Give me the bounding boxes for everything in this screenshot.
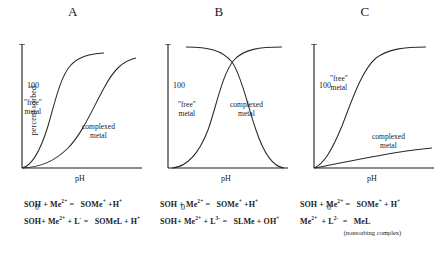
eq-b2-left: SOH+ Me <box>160 217 195 226</box>
eq-c1-left: SOH + Me <box>300 200 337 209</box>
eq-b1-tail: +H <box>244 200 255 209</box>
panel-c-label-free-metal: "free" metal <box>330 74 348 92</box>
eq-b1-right: SOMe <box>216 200 238 209</box>
eq-b1-left-sup: 2+ <box>197 198 203 204</box>
panel-b: B 100 0 "free" metal complexed metal pH <box>146 0 292 195</box>
eq-a2-left-sup: 2+ <box>59 215 65 221</box>
eq-a2-left: SOH+ Me <box>24 217 59 226</box>
eq-a2-tail-sup: + <box>137 215 140 221</box>
eq-a1-tail: +H <box>108 200 119 209</box>
eq-c1-left-sup: 2+ <box>337 198 343 204</box>
panel-b-label-complexed-metal: complexed metal <box>230 100 263 118</box>
panel-a-letter: A <box>0 4 146 20</box>
eq-a1-left-sup: 2+ <box>61 198 67 204</box>
equations-panel-b: SOH + Me2+ = SOMe+ +H+ SOH+ Me2+ + L3- =… <box>160 200 305 234</box>
eq-a1-tail-sup: + <box>119 198 122 204</box>
eq-c1-right-sup: + <box>379 198 382 204</box>
equations-panel-a: SOH + Me2+ = SOMe+ +H+ SOH+ Me2+ + L- = … <box>24 200 164 234</box>
panel-c-label-complexed-metal: complexed metal <box>372 132 405 150</box>
eq-a2-right: SOMeL <box>95 217 122 226</box>
eq-a2-sign: = <box>84 217 89 226</box>
eq-c1-tail-sup: + <box>397 198 400 204</box>
eq-a2-mid-sup: - <box>80 215 82 221</box>
eq-b1-right-sup: + <box>239 198 242 204</box>
eq-c1-tail: + H <box>384 200 397 209</box>
eq-a1-sign: = <box>70 200 75 209</box>
eq-b2-left-sup: 2+ <box>195 215 201 221</box>
equation-b-2: SOH+ Me2+ + L3- = SLMe + OH+ <box>160 217 305 226</box>
eq-b2-mid: + L <box>203 217 215 226</box>
eq-b2-mid-sup: 3- <box>216 215 221 221</box>
panel-b-label-free-metal: "free" metal <box>178 100 196 118</box>
panel-b-ytick-100: 100 <box>163 82 185 90</box>
eq-b2-tail: + OH <box>257 217 276 226</box>
eq-b2-sign: = <box>222 217 227 226</box>
panel-c-ytick-100: 100 <box>309 82 331 90</box>
eq-b1-tail-sup: + <box>255 198 258 204</box>
eq-a1-left: SOH + Me <box>24 200 61 209</box>
panel-b-plot: 100 0 "free" metal complexed metal <box>164 44 288 168</box>
eq-a2-tail: + H <box>124 217 137 226</box>
eq-c1-right: SOMe <box>356 200 378 209</box>
panel-c-svg <box>310 44 436 176</box>
figure-container: A 100 0 percent sorbed "free" metal comp… <box>0 0 439 267</box>
eq-a1-right: SOMe <box>80 200 102 209</box>
equations-panel-c: SOH + Me2+ = SOMe+ + H+ Me2+ + L2- = MeL… <box>300 200 439 236</box>
eq-c2-left-sup: 2+ <box>311 215 317 221</box>
panel-a-plot: 100 0 percent sorbed "free" metal comple… <box>18 44 142 168</box>
eq-b2-right: SLMe <box>233 217 254 226</box>
panel-c: C 100 0 "free" metal complexed metal pH <box>292 0 438 195</box>
eq-c2-mid: + L <box>322 217 334 226</box>
eq-a1-right-sup: + <box>103 198 106 204</box>
panel-a-label-complexed-metal: complexed metal <box>82 122 115 140</box>
panel-a: A 100 0 percent sorbed "free" metal comp… <box>0 0 146 195</box>
equation-a-2: SOH+ Me2+ + L- = SOMeL + H+ <box>24 217 164 226</box>
eq-c2-mid-sup: 2- <box>334 215 339 221</box>
eq-b1-left: SOH + Me <box>160 200 197 209</box>
nonsorbing-complex-note: (nonsorbing complex) <box>300 229 439 236</box>
panel-c-letter: C <box>292 4 438 20</box>
panel-c-curve-complexed-metal <box>314 148 432 168</box>
panel-c-plot: 100 0 "free" metal complexed metal <box>310 44 434 168</box>
equation-a-1: SOH + Me2+ = SOMe+ +H+ <box>24 200 164 209</box>
eq-b2-tail-sup: + <box>276 215 279 221</box>
panel-c-x-axis-label: pH <box>310 174 434 183</box>
equation-c-1: SOH + Me2+ = SOMe+ + H+ <box>300 200 439 209</box>
eq-b1-sign: = <box>206 200 211 209</box>
eq-c2-left: Me <box>300 217 311 226</box>
eq-c1-sign: = <box>346 200 351 209</box>
panel-a-x-axis-label: pH <box>18 174 142 183</box>
equation-c-2: Me2+ + L2- = MeL <box>300 217 439 226</box>
eq-a2-mid: + L <box>67 217 79 226</box>
equation-b-1: SOH + Me2+ = SOMe+ +H+ <box>160 200 305 209</box>
eq-c2-right: MeL <box>354 217 371 226</box>
eq-c2-sign: = <box>343 217 348 226</box>
panel-a-label-free-metal: "free" metal <box>24 98 42 116</box>
panel-b-letter: B <box>146 4 292 20</box>
panel-c-curve-free-metal <box>314 47 426 168</box>
panel-b-x-axis-label: pH <box>164 174 288 183</box>
